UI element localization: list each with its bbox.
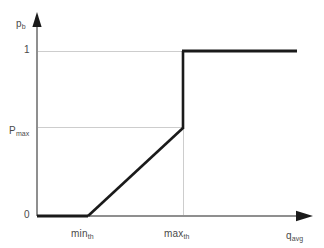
x-axis-label: qavg: [286, 226, 303, 242]
x-tick-minth-sub: th: [88, 233, 94, 240]
x-tick-maxth-base: max: [164, 228, 184, 239]
x-tick-label-minth: minth: [71, 224, 94, 240]
y-tick-label-pmax: Pmax: [9, 121, 29, 137]
y-tick-label-one: 1: [24, 45, 30, 55]
y-tick-pmax-base: P: [9, 125, 16, 136]
y-tick-label-zero: 0: [24, 210, 30, 220]
x-tick-minth-base: min: [71, 228, 88, 239]
x-axis-label-sub: avg: [292, 235, 304, 242]
curve-segment-ramp: [88, 128, 183, 216]
drop-probability-curve: [37, 51, 297, 216]
y-axis-label-sub: b: [22, 23, 26, 30]
y-tick-pmax-sub: max: [16, 130, 30, 137]
arrow-right-icon: [296, 211, 313, 221]
x-tick-maxth-sub: th: [184, 233, 190, 240]
arrow-up-icon: [32, 12, 41, 27]
red-probability-figure: pb 1 Pmax 0 minth maxth qavg: [0, 0, 324, 248]
plot-canvas: [0, 0, 324, 248]
y-tick-one-text: 1: [24, 44, 30, 55]
y-axis-label: pb: [16, 14, 26, 30]
y-tick-zero-text: 0: [24, 209, 30, 220]
x-tick-label-maxth: maxth: [164, 224, 190, 240]
